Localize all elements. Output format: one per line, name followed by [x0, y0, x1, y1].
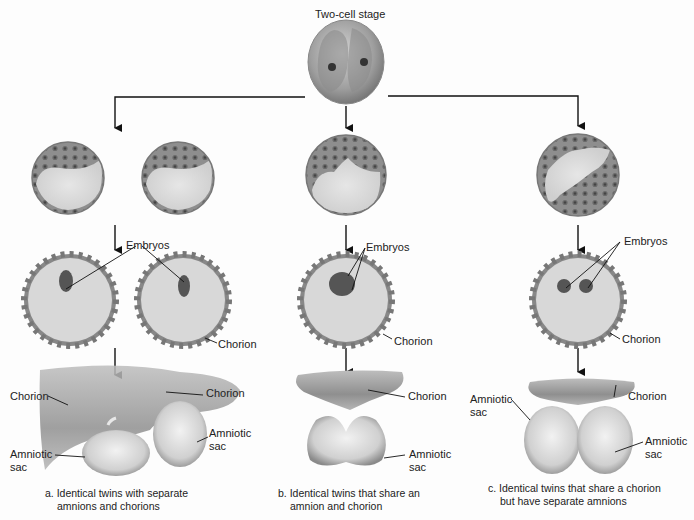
chorion-label-b-top: Chorion: [394, 335, 433, 348]
fetuses-c: [524, 379, 635, 475]
amniotic-sac-label-c-left: Amnioticsac: [470, 393, 512, 419]
caption-c: c. Identical twins that share a chorionb…: [488, 482, 661, 508]
fetuses-b: [296, 371, 404, 466]
amniotic-sac-label-a-right: Amnioticsac: [209, 427, 251, 453]
fetuses-a: [40, 365, 240, 476]
embryos-label-c: Embryos: [624, 235, 667, 248]
caption-b: b. Identical twins that share anamnion a…: [278, 487, 420, 513]
caption-a: a. Identical twins with separateamnions …: [45, 487, 188, 513]
embryos-label-a: Embryos: [126, 239, 169, 252]
chorion-label-a-top: Chorion: [218, 338, 257, 351]
amniotic-sac-label-c-right: Amnioticsac: [645, 435, 687, 461]
chorion-label-c-bottom: Chorion: [628, 390, 667, 403]
chorion-label-a-right: Chorion: [206, 387, 245, 400]
chorion-b: [300, 254, 392, 346]
blastocyst-b: [306, 135, 386, 215]
chorion-label-c-top: Chorion: [622, 333, 661, 346]
chorion-label-a-left: Chorion: [10, 390, 49, 403]
embryos-label-b: Embryos: [366, 241, 409, 254]
blastocyst-c: [537, 134, 619, 216]
two-cell-embryo: [308, 20, 384, 104]
amniotic-sac-label-b: Amnioticsac: [409, 448, 451, 474]
two-cell-stage-label: Two-cell stage: [315, 8, 385, 20]
blastocyst-a-left: [32, 142, 104, 214]
chorion-label-b-bottom: Chorion: [408, 390, 447, 403]
amniotic-sac-label-a-left: Amnioticsac: [10, 448, 52, 474]
blastocyst-a-right: [142, 142, 214, 214]
twinning-diagram: Two-cell stage Embryos Chorion Chorion C…: [0, 0, 694, 520]
chorion-a-left: [24, 254, 116, 346]
diagram-graphics: [0, 0, 694, 520]
chorion-a-right: [137, 254, 229, 346]
chorion-c: [532, 254, 624, 346]
